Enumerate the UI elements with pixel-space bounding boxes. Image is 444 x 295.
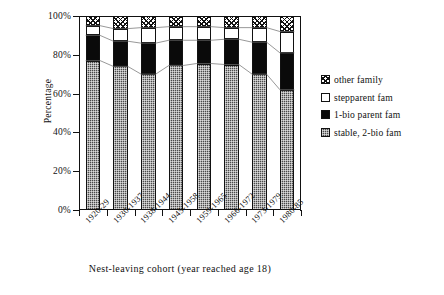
cross-hatch-swatch-icon xyxy=(321,75,330,84)
chart-legend: other family stepparent fam 1-bio parent… xyxy=(321,74,439,144)
legend-item-1-bio-parent-fam: 1-bio parent fam xyxy=(321,109,439,120)
legend-item-stepparent-fam: stepparent fam xyxy=(321,92,439,103)
legend-item-stable-2-bio-fam: stable, 2-bio fam xyxy=(321,127,439,138)
gray-swatch-icon xyxy=(321,128,330,137)
x-tick-label: 1980-85 xyxy=(277,197,305,225)
black-swatch-icon xyxy=(321,110,330,119)
legend-label: other family xyxy=(334,74,383,85)
legend-label: stepparent fam xyxy=(334,92,393,103)
chart-root: 100% 80% 60% 40% 20% 0% 1920-291930-1937… xyxy=(0,0,444,295)
legend-item-other-family: other family xyxy=(321,74,439,85)
legend-label: 1-bio parent fam xyxy=(334,109,400,120)
legend-label: stable, 2-bio fam xyxy=(334,127,401,138)
x-tick-label: 1920-29 xyxy=(83,197,111,225)
x-axis-title: Nest-leaving cohort (year reached age 18… xyxy=(40,263,320,274)
x-axis-labels: 1920-291930-19371938-19441945-19581959-1… xyxy=(0,0,444,295)
white-swatch-icon xyxy=(321,93,330,102)
y-axis-title: Percentage xyxy=(43,41,53,161)
